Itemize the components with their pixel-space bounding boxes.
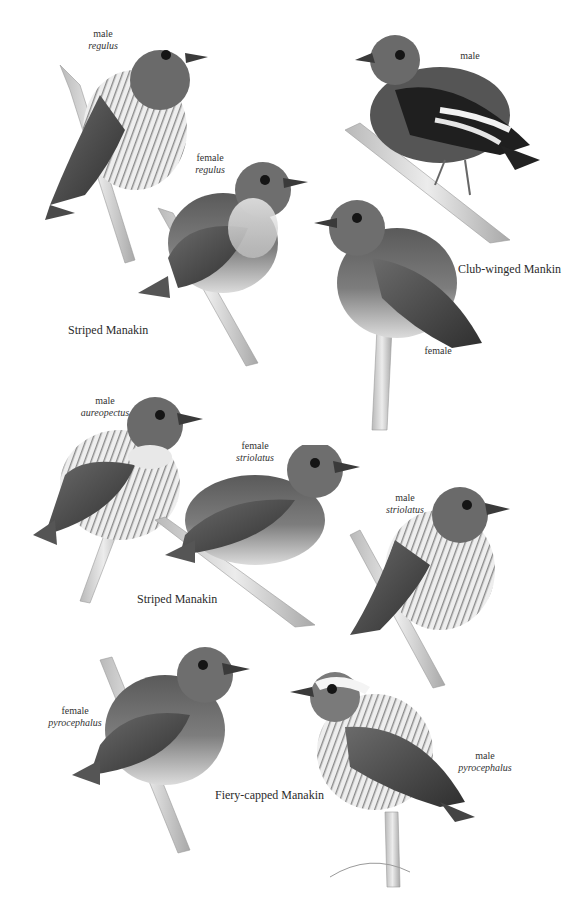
label-fiery-capped-male-pyrocephalus: male pyrocephalus (440, 750, 530, 774)
species-label-striped-manakin-middle: Striped Manakin (137, 592, 217, 607)
sex-label: female (418, 345, 458, 357)
striped-manakin-female-regulus-illustration (128, 158, 313, 368)
subspecies-label: pyrocephalus (440, 762, 530, 774)
striped-manakin-male-striolatus-illustration (345, 485, 515, 690)
species-label-striped-manakin-top: Striped Manakin (68, 323, 148, 338)
label-club-winged-female: female (418, 345, 458, 357)
fiery-capped-manakin-female-illustration (70, 645, 255, 855)
fiery-capped-manakin-male-illustration (290, 672, 480, 892)
bird-illustration-plate: male regulus female regulus Striped Mana… (0, 0, 575, 901)
species-label-club-winged-manakin: Club-winged Mankin (458, 262, 561, 277)
sex-label: male (440, 750, 530, 762)
club-winged-manakin-female-illustration (312, 198, 492, 433)
